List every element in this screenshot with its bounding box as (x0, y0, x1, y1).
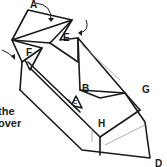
origami-diagram: A E F B C G H D (0, 0, 167, 167)
instruction-fragment-2: over (0, 117, 21, 129)
label-h: H (98, 118, 105, 129)
instruction-fragment-1: the (0, 105, 15, 117)
body-outline (20, 38, 150, 158)
label-g: G (142, 84, 150, 95)
fold-arrow-top (36, 3, 51, 20)
label-d: D (155, 158, 162, 167)
label-b: B (82, 83, 89, 94)
label-a: A (30, 0, 37, 10)
arrowhead-left-icon (11, 54, 15, 60)
label-e: E (63, 32, 70, 43)
label-f: F (26, 47, 32, 58)
label-c: C (73, 99, 78, 105)
arrowhead-top-icon (48, 18, 54, 22)
arrowhead-right-icon (78, 30, 82, 36)
